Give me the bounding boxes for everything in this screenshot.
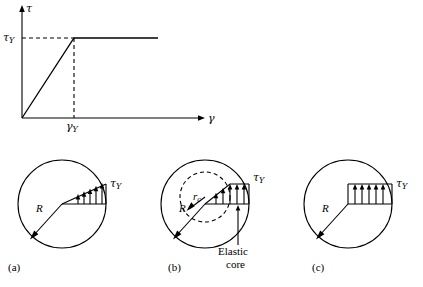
panel-b-stress-arrows: [214, 184, 247, 204]
panel-c-caption: (c): [312, 262, 324, 273]
graph-y-tick-label: τY: [3, 32, 14, 45]
panel-c-stress-label: τY: [396, 178, 407, 191]
panel-b-core-label-line1: Elastic: [218, 246, 248, 257]
panel-b-caption: (b): [168, 262, 181, 273]
panel-a-stress-label: τY: [110, 178, 121, 191]
graph-x-tick-label: γY: [66, 121, 78, 134]
panel-a-radius-label: R: [36, 203, 43, 214]
graph-y-axis-label: τ: [26, 3, 32, 14]
graph-x-axis-label: γ: [208, 113, 215, 124]
panel-a-caption: (a): [8, 262, 20, 273]
graph-y-arrow: [19, 5, 25, 12]
graph-curve: [22, 38, 158, 118]
panel-b-stress-profile: [205, 184, 249, 204]
panel-c-radius-label: R: [322, 203, 329, 214]
graph-x-arrow: [198, 115, 205, 121]
panel-b-core-radius-label: rc: [193, 191, 201, 204]
panel-b-core-leader-arrow: [236, 205, 241, 211]
figure-svg: [0, 0, 423, 287]
panel-b-core-label-line2: core: [226, 259, 245, 270]
panel-b-stress-label: τY: [253, 172, 264, 185]
figure-container: τ γ τY γY R τY (a) R rc τY Elastic core …: [0, 0, 423, 287]
panel-b-radius-label: R: [179, 203, 186, 214]
panel-c-stress-arrows: [353, 184, 386, 204]
